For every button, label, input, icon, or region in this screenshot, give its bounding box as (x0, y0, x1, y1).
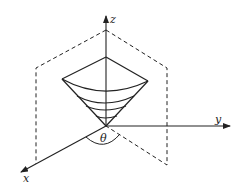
x-axis-label: x (23, 172, 30, 185)
cone-top-left (62, 57, 106, 79)
x-axis (21, 126, 106, 172)
cone-rim-arc (62, 79, 148, 91)
cone-top-right (106, 57, 148, 81)
z-axis-label: z (109, 13, 116, 26)
cone (62, 57, 148, 126)
left-plane-outline (36, 30, 106, 164)
y-axis-label: y (214, 113, 222, 126)
axes (21, 16, 230, 172)
theta-label: θ (100, 132, 107, 145)
right-plane-outline (106, 30, 167, 165)
cone-diagram: z y x θ (0, 0, 242, 189)
cone-right-edge (106, 81, 148, 126)
